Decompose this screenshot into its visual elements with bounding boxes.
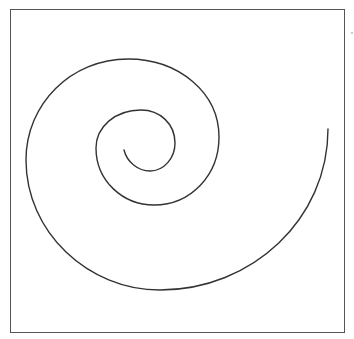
spiral-curve bbox=[26, 59, 328, 290]
edge-mark bbox=[351, 32, 353, 34]
spiral-diagram bbox=[0, 0, 354, 339]
